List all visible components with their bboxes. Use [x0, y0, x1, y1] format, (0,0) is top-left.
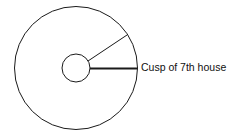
house-cusp-line — [88, 35, 127, 61]
cusp-label: Cusp of 7th house — [141, 61, 226, 73]
inner-circle — [62, 54, 90, 82]
